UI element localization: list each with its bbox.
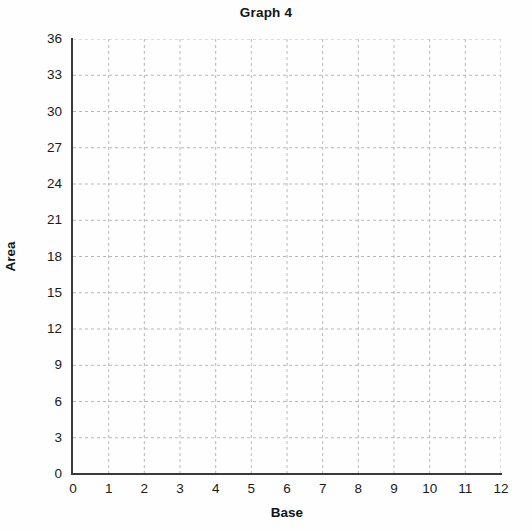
x-axis-tick-label: 0 — [53, 481, 93, 497]
x-axis-title: Base — [73, 505, 501, 520]
x-axis-tick-label: 8 — [338, 481, 378, 497]
x-axis-tick-label: 9 — [374, 481, 414, 497]
x-axis-tick-label: 1 — [89, 481, 129, 497]
x-axis-tick-label: 5 — [231, 481, 271, 497]
y-axis-title: Area — [3, 222, 18, 292]
chart-figure: Graph 4 0369121518212427303336 012345678… — [0, 0, 532, 530]
x-axis-tick-labels: 0123456789101112 — [0, 0, 532, 530]
x-axis-tick-label: 12 — [481, 481, 521, 497]
x-axis-tick-label: 10 — [410, 481, 450, 497]
x-axis-tick-label: 3 — [160, 481, 200, 497]
x-axis-tick-label: 11 — [445, 481, 485, 497]
x-axis-tick-label: 6 — [267, 481, 307, 497]
x-axis-tick-label: 7 — [303, 481, 343, 497]
x-axis-tick-label: 2 — [124, 481, 164, 497]
x-axis-tick-label: 4 — [196, 481, 236, 497]
